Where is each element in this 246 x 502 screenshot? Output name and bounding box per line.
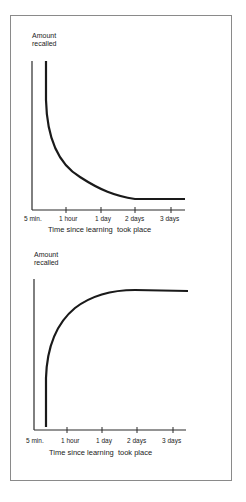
y-axis-label-line2: recalled: [34, 259, 59, 266]
tick-label: 5 min.: [24, 215, 42, 222]
tick-label: 3 days: [160, 215, 180, 223]
y-axis-label-line2: recalled: [32, 40, 57, 47]
tick-label: 1 hour: [61, 437, 80, 444]
y-axis-label-line1: Amount: [32, 32, 56, 39]
tick-label: 5 min.: [26, 437, 44, 444]
tick-label: 2 days: [125, 215, 145, 223]
forgetting-curve: [46, 61, 185, 199]
y-axis-label-line1: Amount: [34, 251, 58, 258]
x-axis-caption: Time since learning took place: [49, 448, 152, 457]
chart-recall-growth: Amount recalled 5 min. 1 hour 1 day 2 da…: [26, 251, 188, 457]
chart-forgetting: Amount recalled 5 min. 1 hour 1 day 2 da…: [24, 32, 185, 234]
x-axis-caption: Time since learning took place: [48, 225, 151, 234]
tick-label: 3 days: [162, 437, 182, 445]
tick-label: 1 hour: [59, 215, 78, 222]
tick-label: 1 day: [95, 215, 112, 223]
tick-label: 1 day: [96, 437, 113, 445]
recall-growth-curve: [46, 290, 188, 427]
figure-svg: Amount recalled 5 min. 1 hour 1 day 2 da…: [0, 0, 246, 502]
tick-label: 2 days: [127, 437, 147, 445]
